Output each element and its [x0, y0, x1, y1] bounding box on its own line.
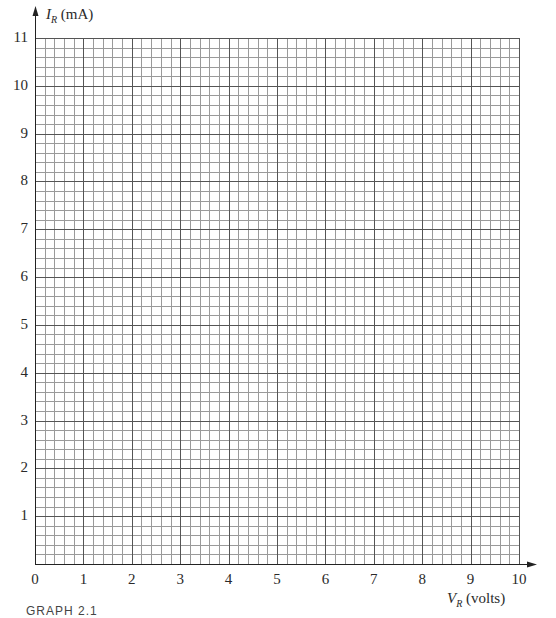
x-axis-unit: (volts) — [466, 590, 505, 606]
y-tick-label: 5 — [4, 317, 28, 332]
x-tick-label: 1 — [68, 572, 98, 587]
x-tick-label: 8 — [407, 572, 437, 587]
y-tick-label: 7 — [4, 221, 28, 236]
x-axis-var: V — [447, 590, 456, 606]
x-tick-label: 7 — [359, 572, 389, 587]
y-axis-unit: (mA) — [61, 6, 94, 22]
x-tick-label: 2 — [117, 572, 147, 587]
y-tick-label: 8 — [4, 173, 28, 188]
figure-caption: GRAPH 2.1 — [26, 604, 98, 618]
x-tick-label: 10 — [504, 572, 534, 587]
x-tick-label: 5 — [262, 572, 292, 587]
x-tick-label: 9 — [456, 572, 486, 587]
y-tick-label: 9 — [4, 126, 28, 141]
x-axis-sub: R — [456, 598, 462, 609]
y-tick-label: 1 — [4, 508, 28, 523]
y-tick-label: 11 — [4, 30, 28, 45]
x-tick-label: 0 — [20, 572, 50, 587]
y-axis-sub: R — [51, 14, 57, 25]
y-tick-label: 3 — [4, 413, 28, 428]
y-tick-label: 6 — [4, 269, 28, 284]
x-tick-label: 3 — [165, 572, 195, 587]
y-tick-label: 2 — [4, 460, 28, 475]
x-axis-title: VR (volts) — [447, 590, 505, 609]
y-axis-arrow-icon — [33, 6, 39, 16]
y-axis-title: IR (mA) — [46, 6, 93, 25]
y-tick-label: 10 — [4, 78, 28, 93]
y-tick-label: 4 — [4, 365, 28, 380]
x-tick-label: 6 — [310, 572, 340, 587]
x-tick-label: 4 — [214, 572, 244, 587]
x-axis-arrow-icon — [527, 562, 537, 568]
